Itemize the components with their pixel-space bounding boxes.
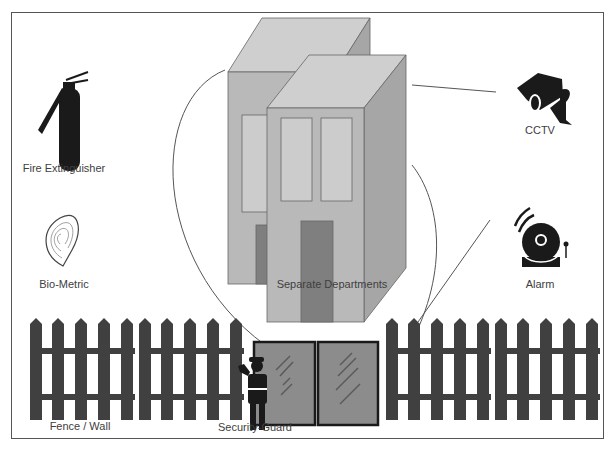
label-fire-extinguisher: Fire Extinguisher: [18, 162, 110, 174]
fire-extinguisher-icon: [38, 72, 88, 171]
connector-cctv: [412, 85, 496, 92]
alarm-bell-icon: [515, 208, 569, 267]
fingerprint-icon: [46, 215, 78, 266]
security-guard-icon: [238, 357, 267, 430]
gate-icon: [254, 342, 378, 425]
label-separate-departments: Separate Departments: [262, 278, 402, 290]
label-bio-metric: Bio-Metric: [18, 278, 110, 290]
cctv-camera-icon: [517, 73, 572, 125]
label-alarm: Alarm: [500, 278, 580, 290]
label-security-guard: Security-Guard: [205, 421, 305, 433]
label-cctv: CCTV: [500, 124, 580, 136]
connector-alarm: [418, 220, 490, 322]
diagram-canvas: [0, 0, 614, 450]
label-fence-wall: Fence / Wall: [30, 420, 130, 432]
